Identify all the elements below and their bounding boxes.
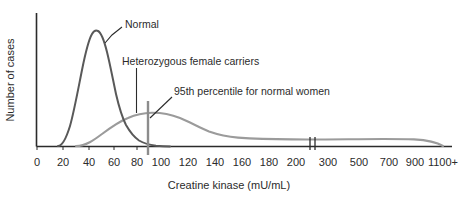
chart-container: Number of cases Normal Heterozygous fema…: [0, 0, 459, 201]
x-tick-label: 700: [380, 156, 398, 168]
creatine-kinase-distribution-chart: Number of cases Normal Heterozygous fema…: [0, 0, 459, 201]
x-tick-label: 100: [152, 156, 170, 168]
x-tick-label: 80: [131, 156, 143, 168]
x-tick-label: 160: [233, 156, 251, 168]
x-tick-label: 0: [34, 156, 40, 168]
x-tick-label: 140: [206, 156, 224, 168]
x-tick-label: 20: [57, 156, 69, 168]
y-axis-title: Number of cases: [4, 38, 16, 122]
x-tick-label: 500: [350, 156, 368, 168]
annotation-normal: Normal: [125, 18, 159, 30]
x-axis-title: Creatine kinase (mU/mL): [168, 179, 290, 191]
x-tick-label: 300: [319, 156, 337, 168]
x-axis-tick-labels: 0 20 40 60 80 100 120 140 160 180 200 30…: [34, 156, 458, 168]
x-tick-label: 40: [83, 156, 95, 168]
x-tick-label: 900: [406, 156, 424, 168]
normal-leader-line: [105, 27, 122, 43]
x-tick-label: 60: [108, 156, 120, 168]
x-tick-label: 1100+: [428, 156, 458, 168]
annotation-carriers: Heterozygous female carriers: [122, 55, 259, 67]
x-tick-label: 120: [179, 156, 197, 168]
x-tick-label: 180: [260, 156, 278, 168]
normal-curve: [58, 31, 170, 147]
annotation-percentile: 95th percentile for normal women: [174, 85, 330, 97]
carriers-curve: [76, 113, 443, 146]
x-tick-label: 200: [287, 156, 305, 168]
